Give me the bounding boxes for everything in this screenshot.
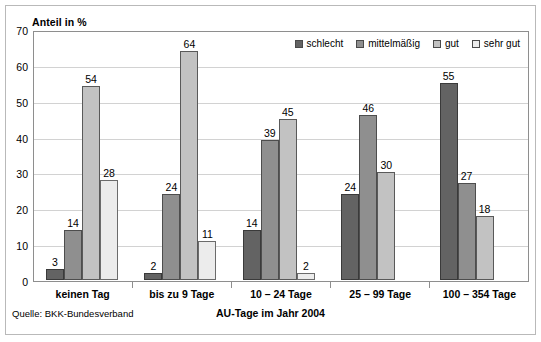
bar-slot: 46 (359, 33, 377, 280)
bar-mittelmaessig[interactable] (162, 194, 180, 280)
bar-value-label: 30 (380, 159, 392, 171)
bar-sehr-gut[interactable] (297, 273, 315, 280)
bar-slot: 24 (341, 33, 359, 280)
bar-value-label: 28 (103, 167, 115, 179)
x-category-label: 25 – 99 Tage (331, 288, 430, 300)
bar-schlecht[interactable] (46, 269, 64, 280)
bar-schlecht[interactable] (341, 194, 359, 280)
bar-value-label: 46 (362, 102, 374, 114)
legend: schlecht mittelmäßig gut sehr gut (293, 37, 522, 50)
legend-label: mittelmäßig (368, 38, 420, 49)
bar-value-label: 14 (246, 217, 258, 229)
bar-group-bars: 3 14 54 28 (35, 33, 133, 280)
y-tick-label: 40 (4, 133, 28, 145)
x-category-label: 10 – 24 Tage (231, 288, 330, 300)
plot-area: 3 14 54 28 (33, 31, 529, 282)
bar-slot: 45 (279, 33, 297, 280)
y-tick-label: 70 (4, 25, 28, 37)
bar-value-label: 24 (166, 181, 178, 193)
bar-slot: 18 (476, 33, 494, 280)
legend-swatch-schlecht-icon (295, 40, 303, 48)
bar-group: 2 24 64 11 (133, 33, 231, 280)
bar-slot: 2 (297, 33, 315, 280)
bar-value-label: 11 (202, 228, 213, 240)
bar-group-bars: 14 39 45 2 (232, 33, 330, 280)
chart-figure: Anteil in % 70 60 50 40 30 20 10 0 (0, 0, 541, 342)
x-category-label: bis zu 9 Tage (132, 288, 231, 300)
bar-slot: 14 (243, 33, 261, 280)
y-axis-tick-labels: 70 60 50 40 30 20 10 0 (0, 31, 28, 282)
source-note: Quelle: BKK-Bundesverband (12, 308, 133, 319)
plot-inner: 3 14 54 28 (34, 32, 528, 281)
x-category-label: 100 – 354 Tage (430, 288, 529, 300)
legend-item-mittelmaessig[interactable]: mittelmäßig (356, 38, 420, 49)
bar-slot: 24 (162, 33, 180, 280)
bar-group-bars: 24 46 30 (330, 33, 428, 280)
bar-value-label: 64 (184, 38, 196, 50)
legend-label: sehr gut (484, 38, 520, 49)
bar-gut[interactable] (180, 51, 198, 280)
bar-slot: 28 (100, 33, 118, 280)
legend-label: schlecht (307, 38, 344, 49)
y-tick-label: 60 (4, 61, 28, 73)
bar-group: 55 27 18 (429, 33, 527, 280)
x-axis-category-labels: keinen Tag bis zu 9 Tage 10 – 24 Tage 25… (33, 288, 529, 300)
bar-value-label: 14 (67, 217, 79, 229)
bar-sehr-gut[interactable] (198, 241, 216, 280)
legend-item-gut[interactable]: gut (433, 38, 459, 49)
bar-mittelmaessig[interactable] (261, 140, 279, 280)
bar-mittelmaessig[interactable] (458, 183, 476, 280)
bar-group-bars: 55 27 18 (429, 33, 527, 280)
legend-item-schlecht[interactable]: schlecht (295, 38, 344, 49)
bar-groups: 3 14 54 28 (35, 33, 527, 280)
y-tick-label: 20 (4, 204, 28, 216)
bar-slot: 2 (144, 33, 162, 280)
bar-slot: 64 (180, 33, 198, 280)
bar-slot: 27 (458, 33, 476, 280)
bar-slot: 30 (377, 33, 395, 280)
bar-slot: 3 (46, 33, 64, 280)
bar-slot: 39 (261, 33, 279, 280)
bar-slot: 14 (64, 33, 82, 280)
bar-value-label: 27 (461, 170, 473, 182)
legend-swatch-sehr-gut-icon (472, 40, 480, 48)
bar-value-label: 45 (282, 106, 294, 118)
bar-group-bars: 2 24 64 11 (133, 33, 231, 280)
y-tick-label: 10 (4, 240, 28, 252)
y-tick-label: 50 (4, 97, 28, 109)
bar-group: 14 39 45 2 (232, 33, 330, 280)
y-axis-title: Anteil in % (32, 16, 87, 28)
bar-group: 3 14 54 28 (35, 33, 133, 280)
bar-gut[interactable] (476, 216, 494, 281)
bar-schlecht[interactable] (440, 83, 458, 280)
bar-mittelmaessig[interactable] (359, 115, 377, 280)
bar-slot: 55 (440, 33, 458, 280)
bar-slot: 11 (198, 33, 216, 280)
bar-slot (494, 33, 512, 280)
bar-slot (395, 33, 413, 280)
bar-value-label: 18 (479, 203, 491, 215)
bar-mittelmaessig[interactable] (64, 230, 82, 280)
bar-gut[interactable] (279, 119, 297, 280)
legend-label: gut (445, 38, 459, 49)
y-tick-label: 0 (4, 276, 28, 288)
bar-value-label: 24 (344, 181, 356, 193)
bar-value-label: 39 (264, 127, 276, 139)
legend-item-sehr-gut[interactable]: sehr gut (472, 38, 520, 49)
bar-group: 24 46 30 (330, 33, 428, 280)
bar-gut[interactable] (82, 86, 100, 280)
legend-swatch-gut-icon (433, 40, 441, 48)
x-category-label: keinen Tag (33, 288, 132, 300)
y-tick-label: 30 (4, 168, 28, 180)
bar-value-label: 55 (443, 70, 455, 82)
bar-schlecht[interactable] (144, 273, 162, 280)
bar-value-label: 54 (85, 73, 97, 85)
bar-slot: 54 (82, 33, 100, 280)
bar-value-label: 2 (303, 260, 309, 272)
bar-sehr-gut[interactable] (100, 180, 118, 280)
bar-value-label: 2 (150, 260, 156, 272)
bar-gut[interactable] (377, 172, 395, 280)
bar-schlecht[interactable] (243, 230, 261, 280)
legend-swatch-mittelmaessig-icon (356, 40, 364, 48)
bar-value-label: 3 (52, 256, 58, 268)
